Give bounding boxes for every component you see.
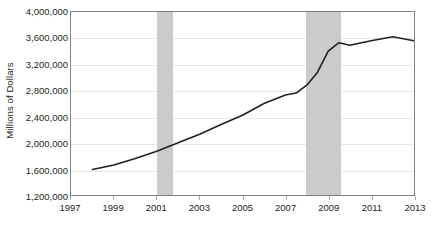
y-axis-tick-label: 1,600,000 <box>14 164 68 175</box>
y-axis-title-label: Millions of Dollars <box>4 62 15 138</box>
y-axis-tick-label: 2,400,000 <box>14 111 68 122</box>
x-axis-tick-label: 2001 <box>146 202 167 213</box>
line-chart: Millions of Dollars 1,200,0001,600,0002,… <box>0 0 438 229</box>
x-axis-tick-mark <box>113 196 114 200</box>
series-line-layer <box>71 12 414 195</box>
y-axis-tick-label: 4,000,000 <box>14 6 68 17</box>
y-axis-tick-label: 3,600,000 <box>14 32 68 43</box>
x-axis-tick-label: 1997 <box>59 202 80 213</box>
series-line <box>92 37 414 170</box>
x-axis-tick-mark <box>70 196 71 200</box>
x-axis-tick-mark <box>199 196 200 200</box>
x-axis-tick-mark <box>156 196 157 200</box>
y-axis-tick-label: 2,000,000 <box>14 138 68 149</box>
plot-area <box>70 11 415 196</box>
x-axis-tick-mark <box>329 196 330 200</box>
x-axis-tick-mark <box>415 196 416 200</box>
y-axis-tick-label: 3,200,000 <box>14 58 68 69</box>
x-axis-tick-label: 1999 <box>103 202 124 213</box>
x-axis-tick-label: 2003 <box>189 202 210 213</box>
x-axis-tick-label: 2013 <box>404 202 425 213</box>
x-axis-tick-label: 2005 <box>232 202 253 213</box>
x-axis-tick-label: 2007 <box>275 202 296 213</box>
x-axis-tick-mark <box>243 196 244 200</box>
y-axis-tick-label: 2,800,000 <box>14 85 68 96</box>
x-axis-tick-labels: 199719992001200320052007200920112013 <box>0 196 438 229</box>
x-axis-tick-label: 2009 <box>318 202 339 213</box>
x-axis-tick-mark <box>372 196 373 200</box>
y-axis-tick-labels: 1,200,0001,600,0002,000,0002,400,0002,80… <box>14 0 68 229</box>
x-axis-tick-mark <box>286 196 287 200</box>
x-axis-tick-label: 2011 <box>362 202 382 213</box>
